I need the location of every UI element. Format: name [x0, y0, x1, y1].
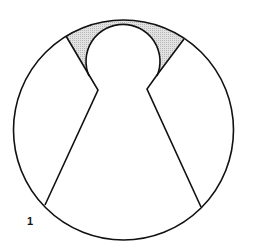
figure-label: 1: [27, 216, 33, 227]
left-body-outline: [45, 36, 98, 205]
right-body-outline: [147, 39, 201, 207]
diagram-figure: [0, 0, 258, 248]
